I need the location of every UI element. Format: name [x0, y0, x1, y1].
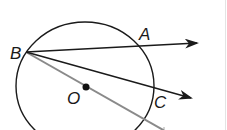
ray-bc [26, 52, 191, 98]
center-point-o [83, 84, 90, 91]
geometry-diagram: B A C O [0, 0, 227, 130]
label-a: A [138, 25, 150, 44]
ray-ba [26, 43, 197, 52]
tick-mark [163, 127, 165, 129]
label-b: B [10, 44, 21, 63]
label-c: C [154, 93, 167, 112]
line-b-through-o [26, 52, 165, 130]
label-o: O [67, 89, 80, 108]
